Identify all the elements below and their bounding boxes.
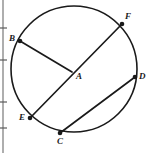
point-label-b: B: [9, 34, 15, 43]
point-label-c: C: [57, 137, 63, 146]
point-dot-b: [18, 39, 23, 44]
point-label-a: A: [76, 72, 82, 81]
point-label-d: D: [139, 72, 146, 81]
circle-outline: [11, 6, 137, 132]
left-ruler: [0, 0, 7, 153]
geometry-canvas: [0, 0, 149, 153]
point-dot-c: [58, 131, 63, 136]
point-dot-f: [120, 22, 125, 27]
segment-ba-radius: [20, 41, 72, 72]
segment-cd-chord: [60, 77, 135, 133]
point-dot-d: [133, 75, 138, 80]
point-dot-e: [28, 116, 33, 121]
circle-diagram: B C D E F A: [0, 0, 149, 153]
point-label-e: E: [19, 113, 25, 122]
point-label-f: F: [125, 12, 131, 21]
